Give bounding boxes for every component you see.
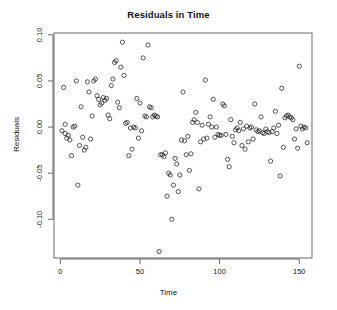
- scatter-point: [135, 96, 139, 100]
- y-axis-label: Residuals: [12, 95, 21, 175]
- y-tick-label: 0.10: [35, 28, 44, 43]
- scatter-point: [139, 129, 143, 133]
- plot-frame: [54, 33, 312, 258]
- scatter-point: [297, 64, 301, 68]
- scatter-point: [117, 106, 121, 110]
- scatter-point: [230, 134, 234, 138]
- scatter-point: [197, 187, 201, 191]
- scatter-point: [272, 126, 276, 130]
- scatter-point: [194, 110, 198, 114]
- y-tick-label: 0.05: [35, 74, 44, 89]
- scatter-point: [141, 56, 145, 60]
- scatter-point: [268, 159, 272, 163]
- scatter-point: [189, 152, 193, 156]
- scatter-point: [181, 90, 185, 94]
- scatter-point: [224, 132, 228, 136]
- scatter-point: [122, 73, 126, 77]
- x-tick-label: 100: [213, 267, 226, 276]
- scatter-point: [278, 174, 282, 178]
- scatter-point: [200, 123, 204, 127]
- scatter-point: [273, 109, 277, 113]
- scatter-point: [85, 80, 89, 84]
- scatter-point: [120, 40, 124, 44]
- scatter-point: [259, 115, 263, 119]
- y-tick-label: 0.00: [35, 120, 44, 135]
- scatter-point: [69, 154, 73, 158]
- scatter-point: [77, 143, 81, 147]
- scatter-point: [214, 125, 218, 129]
- scatter-point: [280, 86, 284, 90]
- scatter-point: [138, 101, 142, 105]
- scatter-point: [79, 105, 83, 109]
- scatter-point: [184, 153, 188, 157]
- scatter-point: [173, 156, 177, 160]
- scatter-point: [90, 114, 94, 118]
- scatter-point: [232, 141, 236, 145]
- scatter-point: [240, 143, 244, 147]
- scatter-point: [68, 138, 72, 142]
- scatter-point: [305, 141, 309, 145]
- data-points: [60, 40, 309, 254]
- scatter-point: [109, 83, 113, 87]
- scatter-point: [276, 123, 280, 127]
- scatter-point: [187, 168, 191, 172]
- scatter-point: [170, 217, 174, 221]
- scatter-point: [81, 135, 85, 139]
- scatter-point: [63, 122, 67, 126]
- scatter-point: [176, 190, 180, 194]
- scatter-point: [116, 100, 120, 104]
- scatter-point: [275, 131, 279, 135]
- scatter-point: [203, 78, 207, 82]
- plot-canvas: 0501001500.100.050.00-0.05-0.10: [0, 0, 337, 310]
- y-tick-label: -0.05: [35, 165, 44, 182]
- scatter-point: [157, 249, 161, 253]
- scatter-point: [178, 173, 182, 177]
- scatter-point: [211, 97, 215, 101]
- scatter-point: [292, 137, 296, 141]
- scatter-point: [208, 115, 212, 119]
- scatter-point: [225, 157, 229, 161]
- scatter-point: [294, 127, 298, 131]
- scatter-point: [243, 147, 247, 151]
- scatter-point: [165, 194, 169, 198]
- scatter-point: [175, 162, 179, 166]
- scatter-point: [108, 117, 112, 121]
- scatter-point: [136, 136, 140, 140]
- scatter-point: [253, 102, 257, 106]
- scatter-point: [281, 145, 285, 149]
- scatter-point: [195, 120, 199, 124]
- scatter-point: [186, 134, 190, 138]
- scatter-plot-figure: Residuals in Time 0501001500.100.050.00-…: [0, 0, 337, 310]
- scatter-point: [238, 120, 242, 124]
- scatter-point: [130, 147, 134, 151]
- x-tick-label: 150: [293, 267, 306, 276]
- scatter-point: [229, 118, 233, 122]
- scatter-point: [227, 165, 231, 169]
- axes: 0501001500.100.050.00-0.05-0.10: [35, 28, 312, 276]
- x-axis-label: Time: [0, 288, 337, 297]
- scatter-point: [246, 140, 250, 144]
- scatter-point: [76, 183, 80, 187]
- scatter-point: [111, 77, 115, 81]
- scatter-point: [210, 125, 214, 129]
- scatter-point: [146, 43, 150, 47]
- scatter-point: [89, 137, 93, 141]
- scatter-point: [127, 154, 131, 158]
- scatter-point: [119, 65, 123, 69]
- x-tick-label: 50: [136, 267, 144, 276]
- y-tick-label: -0.10: [35, 211, 44, 228]
- scatter-point: [251, 137, 255, 141]
- scatter-point: [74, 79, 78, 83]
- scatter-point: [96, 97, 100, 101]
- x-tick-label: 0: [58, 267, 62, 276]
- scatter-point: [163, 151, 167, 155]
- scatter-point: [171, 183, 175, 187]
- scatter-point: [61, 85, 65, 89]
- scatter-point: [296, 146, 300, 150]
- scatter-point: [87, 90, 91, 94]
